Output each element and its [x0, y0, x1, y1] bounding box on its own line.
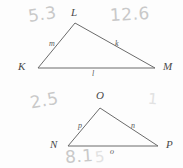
annotation-12-6: 12.6	[110, 5, 151, 24]
side-label-l: l	[92, 70, 94, 78]
annotation-8-1: 8.1	[64, 147, 94, 166]
segment-NO	[68, 108, 100, 146]
side-label-o: o	[110, 148, 114, 156]
vertex-label-L: L	[71, 7, 77, 18]
annotation-smudge-right: 1	[147, 92, 159, 108]
segment-OP	[100, 108, 158, 146]
vertex-label-N: N	[50, 139, 57, 150]
worksheet-canvas: L K M m k l O N P p n o 5.3 12.6 2.5 8.1…	[0, 0, 183, 168]
segment-KL	[38, 23, 75, 68]
side-label-p: p	[78, 122, 82, 130]
side-label-k: k	[115, 40, 119, 48]
vertex-label-P: P	[166, 139, 173, 150]
side-label-n: n	[131, 122, 135, 130]
vertex-label-K: K	[18, 61, 25, 72]
vertex-label-M: M	[163, 61, 172, 72]
triangles-drawing	[0, 0, 183, 168]
side-label-m: m	[49, 40, 55, 48]
triangle-KLM-shape	[38, 23, 155, 68]
annotation-2-5: 2.5	[29, 90, 60, 112]
annotation-smudge-bottom: 5	[94, 150, 106, 166]
vertex-label-O: O	[96, 90, 104, 101]
annotation-5-3: 5.3	[27, 4, 58, 25]
